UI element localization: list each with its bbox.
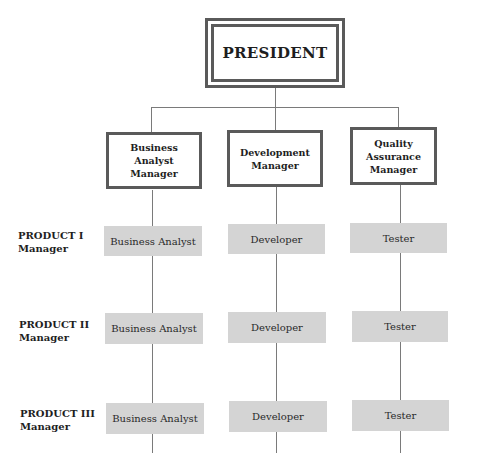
connector-qa-manager xyxy=(398,107,399,127)
manager-label-line: Quality xyxy=(366,137,421,150)
manager-label-line: Manager xyxy=(366,163,421,176)
product-manager-label-1: PRODUCT IManager xyxy=(18,229,84,255)
connector-dev-manager xyxy=(275,107,276,130)
role-tester: Tester xyxy=(352,400,449,431)
manager-label-line: Manager xyxy=(130,167,178,180)
role-developer: Developer xyxy=(228,224,325,254)
connector-ba-manager xyxy=(151,107,152,132)
role-tester: Tester xyxy=(352,311,448,342)
president-title: PRESIDENT xyxy=(211,24,339,82)
role-business-analyst: Business Analyst xyxy=(106,403,204,434)
role-developer: Developer xyxy=(228,312,326,343)
manager-box-quality-assurance: Quality Assurance Manager xyxy=(350,127,437,185)
connector-president-down xyxy=(275,88,276,107)
manager-box-business-analyst: Business Analyst Manager xyxy=(106,132,202,189)
manager-label-line: Analyst xyxy=(130,154,178,167)
manager-label-line: Business xyxy=(130,141,178,154)
role-developer: Developer xyxy=(229,401,327,432)
president-box: PRESIDENT xyxy=(205,18,345,88)
product-manager-label-2: PRODUCT IIManager xyxy=(19,318,89,344)
role-business-analyst: Business Analyst xyxy=(105,313,203,344)
product-manager-label-3: PRODUCT IIIManager xyxy=(20,407,95,433)
manager-label-line: Manager xyxy=(240,159,310,172)
manager-label-line: Assurance xyxy=(366,150,421,163)
manager-label-line: Development xyxy=(240,146,310,159)
manager-box-development: Development Manager xyxy=(227,130,323,187)
role-tester: Tester xyxy=(350,223,447,253)
role-business-analyst: Business Analyst xyxy=(104,226,202,256)
